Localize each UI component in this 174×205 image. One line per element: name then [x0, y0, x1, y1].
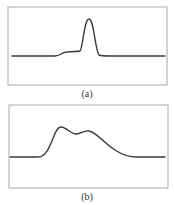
- panel-a-caption: (a): [0, 88, 174, 100]
- panel-a-curve: [12, 19, 165, 56]
- panel-b-caption: (b): [0, 191, 174, 203]
- figure-canvas: [0, 0, 174, 205]
- panel-b-curve: [10, 127, 165, 157]
- panel-b-frame: [9, 105, 168, 188]
- panel-b: [9, 105, 168, 188]
- panel-a-frame: [8, 7, 167, 85]
- panel-a: [8, 7, 167, 85]
